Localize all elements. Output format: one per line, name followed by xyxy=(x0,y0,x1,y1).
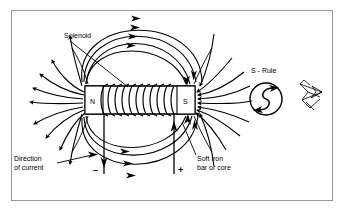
hand-pointer-icon xyxy=(300,80,322,110)
terminal-positive-label: + xyxy=(178,165,183,175)
field-lines-top xyxy=(82,16,202,87)
terminal-negative-label: – xyxy=(93,165,98,175)
soft-iron-label-line1: Soft iron xyxy=(197,155,223,162)
pole-north-label: N xyxy=(90,98,95,105)
s-rule-group: S - Rule xyxy=(250,67,282,115)
direction-of-current-label-line1: Direction xyxy=(14,155,42,162)
soft-iron-label-line2: bar or core xyxy=(197,164,231,171)
direction-leader-line xyxy=(57,155,92,163)
solenoid-label: Solenoid xyxy=(64,32,91,39)
solenoid-field-diagram: N S – xyxy=(0,0,346,212)
s-rule-label: S - Rule xyxy=(251,67,276,74)
label-direction-group: Direction of current xyxy=(14,152,98,172)
field-lines-left-fan xyxy=(30,36,88,164)
s-rule-circle-icon xyxy=(250,83,282,115)
solenoid-leader-line xyxy=(70,41,128,87)
pole-south-label: S xyxy=(183,98,188,105)
direction-of-current-label-line2: of current xyxy=(14,164,44,171)
diagram-page: N S – xyxy=(0,0,346,212)
field-lines-right-fan xyxy=(194,34,252,166)
